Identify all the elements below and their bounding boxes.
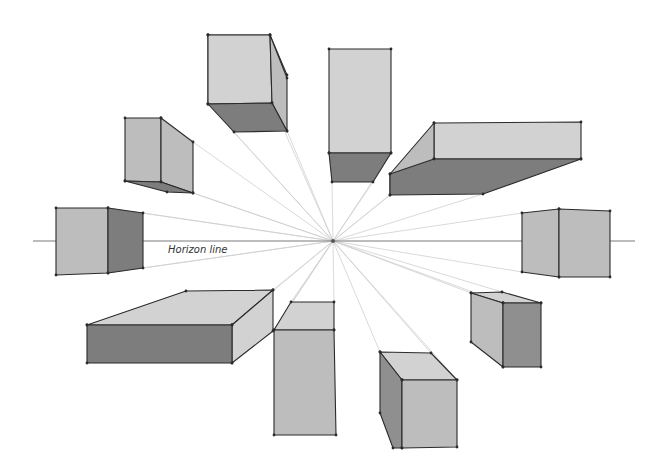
- corner-dot: [160, 181, 163, 184]
- corner-dot: [107, 207, 110, 210]
- box-face: [390, 159, 581, 195]
- corner-dot: [86, 362, 89, 365]
- corner-dot: [389, 173, 392, 176]
- corner-dot: [333, 301, 336, 304]
- box-bottom-left-flat: [86, 289, 275, 365]
- box-left-horizon: [55, 207, 145, 277]
- box-left-upper: [124, 117, 195, 195]
- guide-line: [333, 241, 502, 292]
- box-bottom-center: [273, 301, 338, 437]
- corner-dot: [142, 267, 145, 270]
- guide-line: [234, 132, 333, 241]
- corner-dot: [55, 207, 58, 210]
- corner-dot: [540, 366, 543, 369]
- guide-line: [332, 182, 333, 241]
- corner-dot: [470, 292, 473, 295]
- corner-dot: [502, 302, 505, 305]
- box-top-center-above: [328, 48, 393, 184]
- box-right-lower: [470, 291, 543, 369]
- corner-dot: [501, 291, 504, 294]
- corner-dot: [433, 122, 436, 125]
- corner-dot: [482, 193, 485, 196]
- vanishing-point-marker: [331, 239, 335, 243]
- corner-dot: [502, 366, 505, 369]
- corner-dot: [328, 48, 331, 51]
- corner-dot: [379, 351, 382, 354]
- corner-dot: [233, 131, 236, 134]
- corner-dot: [107, 272, 110, 275]
- box-face: [274, 302, 334, 330]
- box-face: [274, 330, 336, 435]
- corner-dot: [456, 446, 459, 449]
- horizon-line-label: Horizon line: [168, 244, 227, 255]
- box-face: [559, 209, 610, 277]
- corner-dot: [185, 290, 188, 293]
- corner-dot: [470, 341, 473, 344]
- corner-dot: [333, 329, 336, 332]
- box-face: [329, 153, 391, 182]
- box-face: [108, 208, 143, 273]
- corner-dot: [392, 447, 395, 450]
- corner-dot: [55, 274, 58, 277]
- corner-dot: [433, 158, 436, 161]
- box-face: [208, 35, 272, 104]
- guide-line: [333, 194, 483, 241]
- corner-dot: [231, 324, 234, 327]
- perspective-boxes-illustration: [0, 0, 668, 473]
- corner-dot: [456, 379, 459, 382]
- corner-dot: [192, 192, 195, 195]
- guide-line: [193, 193, 333, 241]
- guide-line: [333, 241, 334, 302]
- corner-dot: [390, 48, 393, 51]
- corner-dot: [192, 141, 195, 144]
- corner-dot: [609, 276, 612, 279]
- corner-dot: [286, 130, 289, 133]
- corner-dot: [580, 121, 583, 124]
- corner-dot: [328, 152, 331, 155]
- corner-dot: [609, 210, 612, 213]
- box-face: [161, 118, 193, 193]
- corner-dot: [269, 34, 272, 37]
- corner-dot: [207, 34, 210, 37]
- corner-dot: [372, 181, 375, 184]
- guide-line: [143, 213, 333, 241]
- corner-dot: [273, 329, 276, 332]
- box-face: [329, 49, 391, 153]
- box-face: [522, 209, 559, 277]
- box-right-horizon: [521, 208, 612, 279]
- corner-dot: [558, 276, 561, 279]
- vanishing-point-dot: [331, 239, 335, 243]
- guide-line: [333, 241, 522, 272]
- corner-dot: [558, 208, 561, 211]
- corner-dot: [286, 77, 289, 80]
- corner-dot: [273, 434, 276, 437]
- guide-line: [333, 241, 380, 352]
- corner-dot: [207, 103, 210, 106]
- corner-dot: [401, 379, 404, 382]
- corner-dot: [430, 352, 433, 355]
- corner-dot: [331, 181, 334, 184]
- guide-line: [333, 213, 522, 241]
- corner-dot: [335, 434, 338, 437]
- box-bottom-right-center: [379, 351, 459, 450]
- corner-dot: [379, 412, 382, 415]
- corner-dot: [540, 302, 543, 305]
- corner-dot: [389, 194, 392, 197]
- corner-dot: [160, 117, 163, 120]
- guide-line: [291, 241, 333, 302]
- corner-dot: [521, 271, 524, 274]
- box-face: [56, 208, 108, 275]
- corner-dot: [166, 191, 169, 194]
- box-face: [402, 380, 457, 448]
- corner-dot: [272, 289, 275, 292]
- corner-dot: [390, 152, 393, 155]
- corner-dot: [290, 301, 293, 304]
- corner-dot: [580, 158, 583, 161]
- box-face: [87, 325, 232, 363]
- box-face: [471, 293, 503, 367]
- corner-dot: [124, 117, 127, 120]
- box-top-left-above: [207, 34, 289, 134]
- box-face: [434, 122, 581, 159]
- corner-dot: [86, 324, 89, 327]
- corner-dot: [142, 212, 145, 215]
